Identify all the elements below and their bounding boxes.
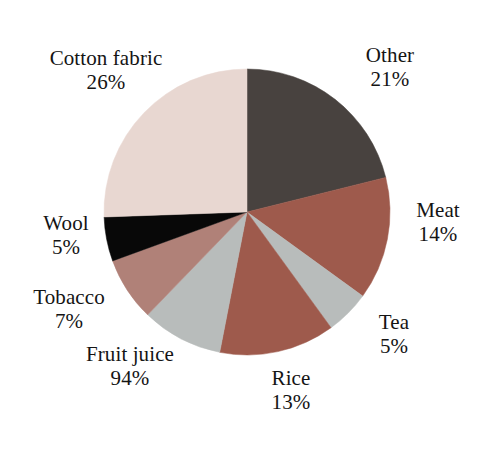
pie-label-fruit-juice-name: Fruit juice <box>62 343 198 367</box>
pie-label-rice: Rice 13% <box>245 367 337 415</box>
pie-label-tea: Tea 5% <box>356 311 432 359</box>
pie-label-other-value: 21% <box>328 68 452 92</box>
pie-label-tea-name: Tea <box>356 311 432 335</box>
pie-label-meat: Meat 14% <box>396 199 480 247</box>
pie-label-tobacco: Tobacco 7% <box>12 286 126 334</box>
pie-label-tea-value: 5% <box>356 335 432 359</box>
pie-chart-figure: Cotton fabric 26% Other 21% Meat 14% Tea… <box>0 0 480 453</box>
pie-label-wool-value: 5% <box>22 236 110 260</box>
pie-label-wool-name: Wool <box>22 212 110 236</box>
pie-label-cotton-fabric-value: 26% <box>16 71 196 95</box>
pie-label-other-name: Other <box>328 44 452 68</box>
pie-label-cotton-fabric: Cotton fabric 26% <box>16 47 196 95</box>
pie-label-tobacco-value: 7% <box>12 310 126 334</box>
pie-label-rice-name: Rice <box>245 367 337 391</box>
pie-label-cotton-fabric-name: Cotton fabric <box>16 47 196 71</box>
pie-label-meat-value: 14% <box>396 223 480 247</box>
pie-label-rice-value: 13% <box>245 391 337 415</box>
pie-label-fruit-juice: Fruit juice 94% <box>62 343 198 391</box>
pie-label-tobacco-name: Tobacco <box>12 286 126 310</box>
pie-slice-group <box>104 69 390 355</box>
pie-label-fruit-juice-value: 94% <box>62 367 198 391</box>
pie-label-other: Other 21% <box>328 44 452 92</box>
pie-label-wool: Wool 5% <box>22 212 110 260</box>
pie-label-meat-name: Meat <box>396 199 480 223</box>
